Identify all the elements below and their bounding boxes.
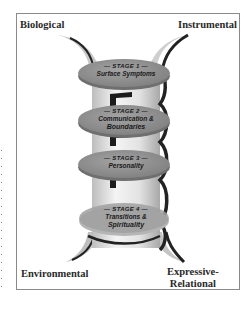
stage-2-label: — STAGE 2 — Communication & Boundaries — [0, 107, 252, 131]
label-instrumental: Instrumental — [178, 19, 237, 31]
stage-number: — STAGE 3 — — [0, 154, 252, 162]
stage-title-line2: Spirituality — [0, 221, 252, 229]
stage-number: — STAGE 1 — — [0, 62, 252, 70]
stage-number: — STAGE 2 — — [0, 107, 252, 115]
label-environmental: Environmental — [21, 268, 88, 280]
stage-3-label: — STAGE 3 — Personality — [0, 154, 252, 170]
stage-number: — STAGE 4 — — [0, 205, 252, 213]
label-expressive: Expressive- — [167, 266, 219, 277]
label-biological: Biological — [20, 19, 64, 31]
page-edge-marks — [1, 150, 3, 300]
stage-1-label: — STAGE 1 — Surface Symptoms — [0, 62, 252, 78]
label-relational: Relational — [170, 278, 216, 289]
stage-title: Communication & — [0, 115, 252, 123]
stage-title: Surface Symptoms — [0, 70, 252, 78]
stage-4-label: — STAGE 4 — Transitions & Spirituality — [0, 205, 252, 229]
label-expressive-relational: Expressive- Relational — [167, 266, 219, 290]
stage-title: Personality — [0, 162, 252, 170]
stage-title-line2: Boundaries — [0, 123, 252, 131]
stage-title: Transitions & — [0, 213, 252, 221]
